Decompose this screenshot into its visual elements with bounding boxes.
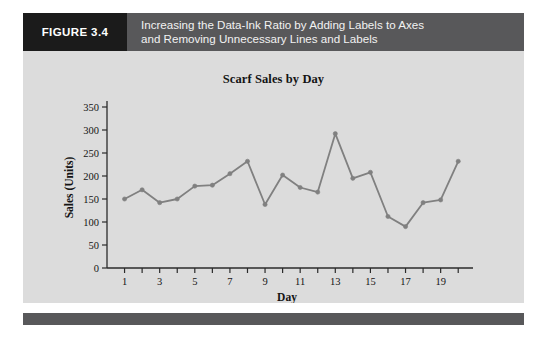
data-point-marker	[210, 183, 214, 187]
figure-caption-line-2: and Removing Unnecessary Lines and Label…	[141, 32, 378, 45]
x-axis-tick-label: 1	[122, 276, 127, 287]
data-point-marker	[333, 132, 337, 136]
line-chart-plot: 050100150200250300350135791113151719DayS…	[23, 51, 524, 303]
figure-number-box: FIGURE 3.4	[23, 13, 127, 51]
data-point-marker	[386, 214, 390, 218]
data-point-marker	[175, 197, 179, 201]
data-point-marker	[403, 225, 407, 229]
x-axis-title: Day	[277, 291, 297, 303]
data-point-marker	[140, 188, 144, 192]
x-axis-tick-label: 13	[330, 276, 341, 287]
y-axis-title: Sales (Units)	[63, 157, 76, 219]
data-point-marker	[439, 198, 443, 202]
figure-footer-bar	[23, 313, 524, 325]
x-axis-tick-label: 9	[262, 276, 267, 287]
data-point-marker	[368, 170, 372, 174]
data-point-marker	[228, 172, 232, 176]
data-point-marker	[298, 185, 302, 189]
y-axis-tick-label: 150	[83, 194, 99, 205]
y-axis-tick-label: 250	[83, 148, 99, 159]
figure-container: FIGURE 3.4 Increasing the Data-Ink Ratio…	[0, 0, 547, 342]
x-axis-tick-label: 3	[157, 276, 162, 287]
y-axis-tick-label: 100	[83, 217, 99, 228]
data-point-marker	[193, 184, 197, 188]
data-series-line	[125, 134, 459, 227]
figure-caption: Increasing the Data-Ink Ratio by Adding …	[127, 13, 524, 51]
data-point-marker	[456, 159, 460, 163]
figure-caption-line-1: Increasing the Data-Ink Ratio by Adding …	[141, 18, 424, 31]
data-point-marker	[316, 190, 320, 194]
figure-caption-text: Increasing the Data-Ink Ratio by Adding …	[141, 18, 424, 47]
x-axis-tick-label: 17	[400, 276, 411, 287]
data-point-marker	[122, 197, 126, 201]
figure-number-label: FIGURE 3.4	[42, 26, 109, 38]
x-axis-tick-label: 7	[227, 276, 232, 287]
x-axis-tick-label: 15	[365, 276, 376, 287]
y-axis-tick-label: 0	[94, 263, 99, 274]
chart-panel: Scarf Sales by Day 050100150200250300350…	[23, 51, 524, 303]
figure-header-banner: FIGURE 3.4 Increasing the Data-Ink Ratio…	[23, 13, 524, 51]
x-axis-tick-label: 5	[192, 276, 197, 287]
x-axis-tick-label: 11	[295, 276, 305, 287]
y-axis-tick-label: 200	[83, 171, 99, 182]
data-point-marker	[281, 173, 285, 177]
data-point-marker	[351, 176, 355, 180]
data-point-marker	[263, 202, 267, 206]
data-point-marker	[421, 201, 425, 205]
x-axis-tick-label: 19	[435, 276, 446, 287]
y-axis-tick-label: 300	[83, 125, 99, 136]
y-axis-tick-label: 50	[89, 240, 100, 251]
data-point-marker	[158, 201, 162, 205]
y-axis-tick-label: 350	[83, 102, 99, 113]
data-point-marker	[245, 159, 249, 163]
